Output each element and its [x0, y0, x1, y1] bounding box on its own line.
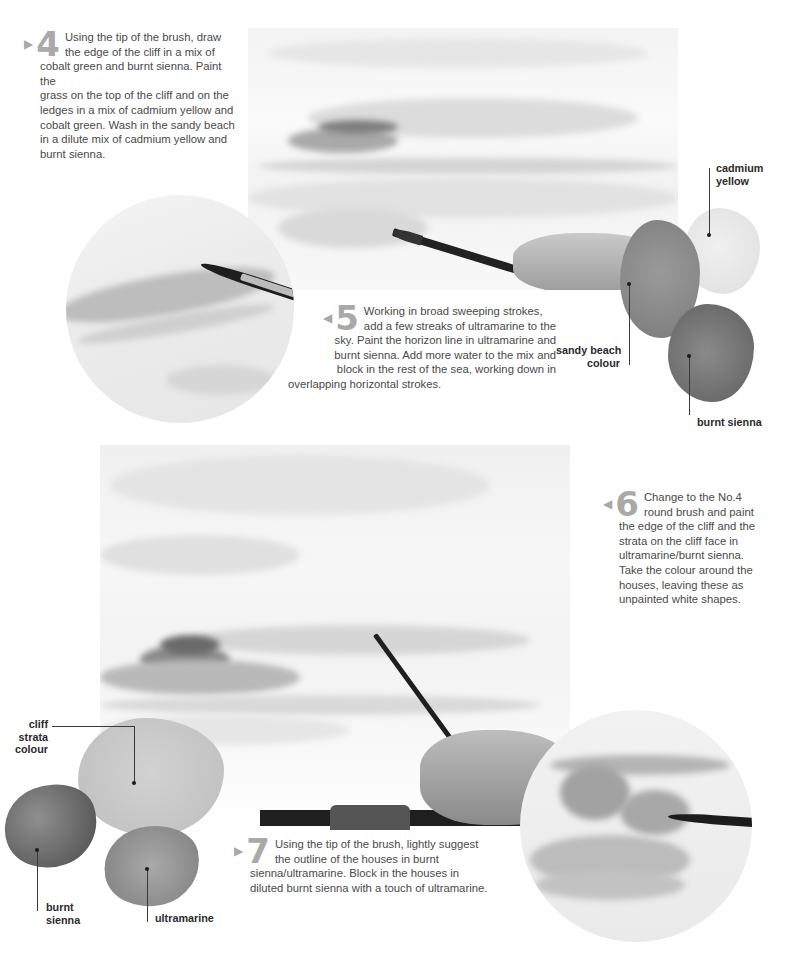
step-text-line: add a few streaks of ultramarine to the [364, 319, 556, 334]
step-6-instructions: ◀ 6 Change to the No.4 round brush and p… [603, 490, 783, 607]
leader-line [709, 168, 710, 234]
label-ultramarine: ultramarine [155, 912, 214, 925]
step-number: 5 [335, 304, 359, 332]
step-text-line: unpainted white shapes. [619, 592, 783, 607]
step-number: 7 [246, 837, 270, 865]
step-text-line: the edge of the cliff and the [619, 519, 783, 534]
swatch-ultramarine [97, 817, 208, 915]
detail-circle-cliff [66, 195, 294, 423]
step-text-line: ledges in a mix of cadmium yellow and [40, 103, 239, 118]
leader-dot [687, 354, 691, 358]
step-text-line: houses, leaving these as [619, 578, 783, 593]
step-5-instructions: ◀ 5 Working in broad sweeping strokes, a… [296, 304, 556, 392]
step-text-line: burnt sienna. Add more water to the mix … [296, 348, 556, 363]
step-7-instructions: ▶ 7 Using the tip of the brush, lightly … [234, 837, 504, 895]
leader-line [52, 726, 134, 727]
leader-line [629, 283, 630, 365]
step-text-line: cobalt green. Wash in the sandy beach [40, 118, 239, 133]
step-text-line: overlapping horizontal strokes. [288, 377, 556, 392]
leader-line [689, 355, 690, 415]
painting-photo-top [248, 28, 678, 290]
leader-dot [707, 233, 711, 237]
label-burnt-sienna-bottom: burnt sienna [46, 901, 80, 926]
leader-dot [132, 781, 136, 785]
label-cadmium-yellow: cadmium yellow [716, 162, 763, 187]
step-text-line: the outline of the houses in burnt [275, 852, 478, 867]
step-text-line: strata on the cliff face in [619, 534, 783, 549]
step-number: 4 [36, 30, 60, 58]
step-text-line: Using the tip of the brush, lightly sugg… [275, 837, 478, 852]
leader-line [147, 868, 148, 922]
step-text-line: round brush and paint [644, 505, 754, 520]
label-cliff-strata: cliff strata colour [10, 718, 48, 756]
leader-dot [145, 867, 149, 871]
step-arrow-left-icon: ◀ [323, 311, 332, 326]
step-number: 6 [615, 490, 639, 518]
step-4-instructions: ▶ 4 Using the tip of the brush, draw the… [24, 30, 239, 161]
swatch-burnt-sienna [668, 304, 754, 402]
leader-dot [35, 848, 39, 852]
leader-line [37, 849, 38, 911]
step-arrow-right-icon: ▶ [24, 37, 33, 52]
leader-dot [627, 282, 631, 286]
step-text-line: Using the tip of the brush, draw [65, 30, 221, 45]
label-sandy-beach: sandy beach colour [556, 344, 620, 369]
step-text-line: Working in broad sweeping strokes, [364, 304, 556, 319]
step-text-line: sienna/ultramarine. Block in the houses … [250, 866, 504, 881]
step-text-line: Change to the No.4 [644, 490, 754, 505]
step-arrow-left-icon: ◀ [603, 497, 612, 512]
label-burnt-sienna-top: burnt sienna [697, 416, 762, 429]
leader-line [134, 726, 135, 782]
step-text-line: diluted burnt sienna with a touch of ult… [250, 881, 504, 896]
step-text-line: the edge of the cliff in a mix of [65, 45, 221, 60]
step-text-line: grass on the top of the cliff and on the [40, 88, 239, 103]
step-arrow-right-icon: ▶ [234, 844, 243, 859]
detail-circle-houses [520, 710, 752, 942]
step-text-line: sky. Paint the horizon line in ultramari… [296, 333, 556, 348]
step-text-line: in a dilute mix of cadmium yellow and [40, 132, 239, 147]
step-text-line: block in the rest of the sea, working do… [284, 362, 556, 377]
step-text-line: cobalt green and burnt sienna. Paint the [40, 59, 239, 88]
step-text-line: ultramarine/burnt sienna. [619, 548, 783, 563]
step-text-line: burnt sienna. [40, 147, 239, 162]
step-text-line: Take the colour around the [619, 563, 783, 578]
